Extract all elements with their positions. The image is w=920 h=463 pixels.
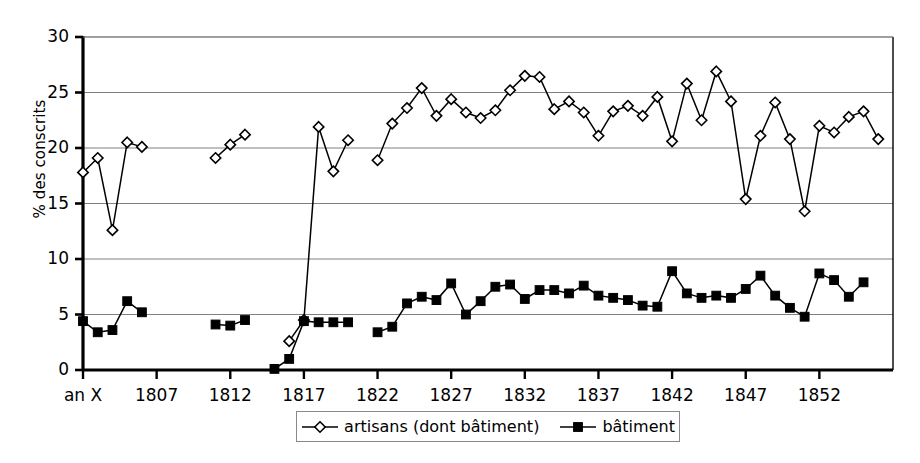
x-tick-label: 1842	[632, 387, 712, 404]
data-point-marker	[432, 296, 441, 305]
data-point-marker	[668, 267, 677, 276]
data-point-marker	[520, 295, 529, 304]
data-point-marker	[565, 289, 574, 298]
data-point-marker	[624, 296, 633, 305]
data-point-marker	[476, 297, 485, 306]
data-point-marker	[579, 281, 588, 290]
y-tick-label: 25	[35, 84, 69, 101]
data-point-marker	[417, 292, 426, 301]
y-tick-label: 5	[35, 306, 69, 323]
data-point-marker	[609, 293, 618, 302]
data-point-marker	[786, 303, 795, 312]
data-point-marker	[535, 286, 544, 295]
filled-square-icon	[559, 419, 597, 435]
data-point-marker	[800, 312, 809, 321]
legend-label: bâtiment	[602, 419, 675, 435]
y-tick-label: 10	[35, 250, 69, 267]
data-point-marker	[653, 302, 662, 311]
data-point-marker	[123, 297, 132, 306]
data-point-marker	[344, 318, 353, 327]
data-point-marker	[447, 279, 456, 288]
data-point-marker	[506, 280, 515, 289]
data-point-marker	[771, 291, 780, 300]
x-tick-label: 1852	[779, 387, 859, 404]
legend-item-1: artisans (dont bâtiment)	[301, 419, 539, 435]
y-tick-label: 20	[35, 139, 69, 156]
data-point-marker	[574, 422, 583, 431]
x-tick-label: 1837	[558, 387, 638, 404]
y-tick-label: 30	[35, 28, 69, 45]
data-point-marker	[741, 285, 750, 294]
data-point-marker	[300, 317, 309, 326]
x-tick-label: 1832	[485, 387, 565, 404]
x-tick-label: 1827	[411, 387, 491, 404]
data-point-marker	[93, 328, 102, 337]
data-point-marker	[844, 292, 853, 301]
data-point-marker	[815, 269, 824, 278]
data-point-marker	[682, 289, 691, 298]
data-point-marker	[79, 317, 88, 326]
data-point-marker	[491, 282, 500, 291]
data-point-marker	[241, 316, 250, 325]
data-point-marker	[697, 293, 706, 302]
open-diamond-icon	[301, 419, 339, 435]
data-point-marker	[550, 286, 559, 295]
data-point-marker	[712, 291, 721, 300]
data-point-marker	[403, 299, 412, 308]
y-tick-label: 0	[35, 361, 69, 378]
data-point-marker	[594, 291, 603, 300]
x-tick-label: 1807	[117, 387, 197, 404]
data-point-marker	[727, 293, 736, 302]
data-point-marker	[859, 278, 868, 287]
data-point-marker	[138, 308, 147, 317]
chart-container: % des conscrits 051015202530 an X1807181…	[0, 0, 920, 463]
data-point-marker	[108, 326, 117, 335]
data-point-marker	[211, 320, 220, 329]
x-tick-label: 1812	[190, 387, 270, 404]
data-point-marker	[314, 318, 323, 327]
x-tick-label: 1817	[264, 387, 344, 404]
legend-item-2: bâtiment	[559, 419, 675, 435]
data-point-marker	[315, 421, 325, 431]
y-tick-label: 15	[35, 195, 69, 212]
chart-legend: artisans (dont bâtiment)bâtiment	[296, 411, 680, 442]
data-point-marker	[226, 321, 235, 330]
data-point-marker	[329, 318, 338, 327]
data-point-marker	[388, 322, 397, 331]
x-tick-label: an X	[43, 387, 123, 404]
data-point-marker	[638, 301, 647, 310]
legend-label: artisans (dont bâtiment)	[344, 419, 539, 435]
data-point-marker	[270, 364, 279, 373]
data-point-marker	[373, 328, 382, 337]
x-tick-label: 1822	[338, 387, 418, 404]
data-point-marker	[285, 355, 294, 364]
data-point-marker	[462, 310, 471, 319]
data-point-marker	[830, 276, 839, 285]
x-tick-label: 1847	[706, 387, 786, 404]
data-point-marker	[756, 271, 765, 280]
